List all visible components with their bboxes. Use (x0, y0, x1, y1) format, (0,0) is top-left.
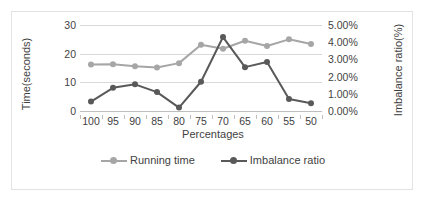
x-axis-title: Percentages (12, 128, 414, 140)
chart-legend: Running timeImbalance ratio (12, 154, 414, 166)
x-axis-tick-label: 70 (211, 115, 235, 127)
data-point (308, 100, 314, 106)
y-axis-right-tick-label: 4.00% (328, 37, 368, 47)
data-point (264, 43, 270, 49)
x-axis-ticks: 10095908580757065605550 (80, 115, 322, 129)
plot-area (80, 25, 322, 111)
data-point (220, 34, 226, 40)
x-axis-tick-label: 90 (123, 115, 147, 127)
y-axis-right-tick-label: 2.00% (328, 72, 368, 82)
x-axis-tick-label: 55 (277, 115, 301, 127)
data-point (176, 105, 182, 111)
legend-swatch-icon (101, 156, 127, 165)
y-axis-right-tick-label: 3.00% (328, 54, 368, 64)
legend-label: Running time (130, 154, 195, 166)
data-point (286, 96, 292, 102)
y-axis-right-tick-label: 5.00% (328, 20, 368, 30)
data-point (176, 60, 182, 66)
y-axis-right-title: Imbalance ratio(%) (392, 18, 404, 122)
y-axis-left-tick-label: 20 (50, 49, 76, 59)
y-axis-right-tick-label: 1.00% (328, 89, 368, 99)
x-axis-tick-label: 75 (189, 115, 213, 127)
x-axis-line (80, 111, 322, 112)
data-point (154, 89, 160, 95)
y-axis-left-title: Time(seconds) (20, 26, 32, 122)
data-point (242, 38, 248, 44)
data-point (132, 81, 138, 87)
data-point (110, 61, 116, 67)
data-point (264, 59, 270, 65)
series-lines (80, 25, 322, 111)
data-point (110, 85, 116, 91)
y-axis-left-tick-label: 30 (50, 20, 76, 30)
data-point (198, 79, 204, 85)
data-point (88, 99, 94, 105)
x-axis-tick-label: 85 (145, 115, 169, 127)
x-axis-tick-label: 60 (255, 115, 279, 127)
x-axis-tick-label: 65 (233, 115, 257, 127)
data-point (220, 46, 226, 52)
chart-container: Time(seconds) Imbalance ratio(%) 0102030… (11, 11, 413, 190)
legend-label: Imbalance ratio (250, 154, 325, 166)
x-axis-tick-label: 100 (79, 115, 103, 127)
legend-item[interactable]: Running time (101, 154, 195, 166)
data-point (286, 36, 292, 42)
data-point (308, 41, 314, 47)
y-axis-left-tick-label: 0 (50, 106, 76, 116)
y-axis-right-tick-label: 0.00% (328, 106, 368, 116)
legend-swatch-icon (221, 156, 247, 165)
x-axis-tick-label: 50 (299, 115, 323, 127)
x-axis-tick-label: 80 (167, 115, 191, 127)
data-point (132, 63, 138, 69)
data-point (198, 42, 204, 48)
x-axis-tick-label: 95 (101, 115, 125, 127)
data-point (154, 64, 160, 70)
y-axis-left-ticks: 0102030 (46, 25, 76, 111)
y-axis-left-tick-label: 10 (50, 77, 76, 87)
y-axis-right-ticks: 0.00%1.00%2.00%3.00%4.00%5.00% (328, 25, 372, 111)
data-point (242, 64, 248, 70)
legend-item[interactable]: Imbalance ratio (221, 154, 325, 166)
data-point (88, 62, 94, 68)
